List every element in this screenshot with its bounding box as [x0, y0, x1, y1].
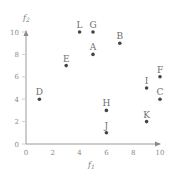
data-point: K [143, 110, 150, 124]
point-marker [158, 75, 162, 79]
y-axis-arrow-icon [24, 30, 29, 36]
x-tick-label: 8 [131, 149, 135, 157]
point-label: C [157, 87, 164, 97]
y-tick-label: 0 [15, 141, 19, 149]
data-point: E [63, 54, 70, 68]
data-point: A [89, 42, 97, 56]
point-marker [91, 53, 95, 57]
point-marker [145, 120, 149, 124]
point-label: F [157, 65, 163, 75]
point-label: G [89, 20, 96, 30]
point-label: D [36, 87, 43, 97]
y-tick-label: 8 [15, 51, 19, 59]
data-point: G [89, 20, 96, 34]
y-tick-label: 2 [15, 118, 19, 126]
data-point: F [157, 65, 163, 79]
x-axis-label: f1 [87, 160, 95, 170]
data-point: L [77, 20, 83, 34]
data-point: B [116, 31, 123, 45]
point-marker [78, 30, 82, 34]
x-tick-label: 10 [156, 149, 165, 157]
point-label: A [89, 42, 97, 52]
data-points: ABCDEFGHIJKL [36, 20, 164, 135]
data-point: J [104, 121, 109, 135]
x-tick-label: 0 [24, 149, 28, 157]
point-marker [38, 97, 42, 101]
y-tick-label: 6 [15, 73, 20, 81]
data-point: H [102, 98, 110, 112]
point-marker [118, 41, 122, 45]
data-point: I [145, 76, 149, 90]
scatter-chart: 0246810 0246810 f1 f2 ABCDEFGHIJKL [0, 0, 175, 183]
point-label: J [104, 121, 109, 131]
point-label: L [77, 20, 83, 30]
x-tick-label: 6 [104, 149, 109, 157]
point-label: B [116, 31, 123, 41]
point-marker [158, 97, 162, 101]
data-point: C [157, 87, 164, 101]
y-tick-label: 10 [10, 29, 19, 37]
x-ticks: 0246810 [24, 149, 165, 157]
point-marker [145, 86, 149, 90]
point-label: I [145, 76, 149, 86]
point-label: E [63, 54, 70, 64]
point-marker [105, 131, 109, 135]
data-point: D [36, 87, 43, 101]
point-label: K [143, 110, 150, 120]
y-axis-label: f2 [22, 13, 30, 23]
x-axis-arrow-icon [155, 142, 161, 147]
y-ticks: 0246810 [10, 29, 26, 149]
y-tick-label: 4 [15, 96, 20, 104]
point-label: H [102, 98, 110, 108]
point-marker [105, 109, 109, 113]
point-marker [91, 30, 95, 34]
x-tick-label: 4 [77, 149, 82, 157]
x-tick-label: 2 [51, 149, 55, 157]
point-marker [64, 64, 68, 68]
